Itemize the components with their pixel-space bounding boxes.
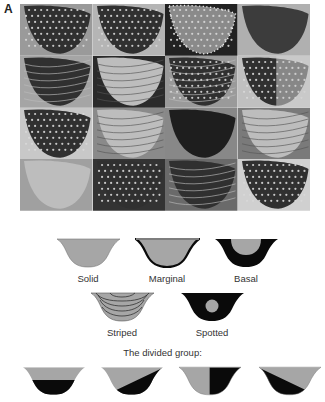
specimen-photo (165, 56, 238, 108)
specimen-photo (238, 108, 311, 160)
specimen-photo (93, 108, 166, 160)
basal-schematic (214, 237, 279, 269)
specimen-photo (20, 56, 93, 108)
marginal-schematic (135, 237, 200, 269)
specimen-photo (93, 56, 166, 108)
specimen-photo (20, 4, 93, 56)
specimen-photo (165, 108, 238, 160)
solid-schematic (56, 237, 121, 269)
specimen-photo (165, 4, 238, 56)
specimen-photo (238, 4, 311, 56)
specimen-photo (20, 108, 93, 160)
specimen-photo (238, 159, 311, 211)
specimen-photo (165, 159, 238, 211)
spotted-schematic (180, 291, 245, 323)
divided-vertical-schematic (178, 364, 242, 398)
spotted-label: Spotted (196, 327, 229, 338)
specimen-photo (93, 159, 166, 211)
marginal-label: Marginal (149, 273, 185, 284)
divided-group-title: The divided group: (0, 347, 325, 358)
striped-label: Striped (107, 327, 137, 338)
specimen-photo (238, 56, 311, 108)
divided-horizontal-schematic (22, 364, 86, 398)
striped-schematic (90, 291, 155, 323)
photo-grid (20, 4, 310, 211)
solid-label: Solid (77, 273, 98, 284)
divided-diagonal-down-schematic (258, 364, 322, 398)
basal-label: Basal (234, 273, 258, 284)
specimen-photo (20, 159, 93, 211)
divided-diagonal-up-schematic (100, 364, 164, 398)
specimen-photo (93, 4, 166, 56)
panel-label: A (4, 2, 13, 16)
